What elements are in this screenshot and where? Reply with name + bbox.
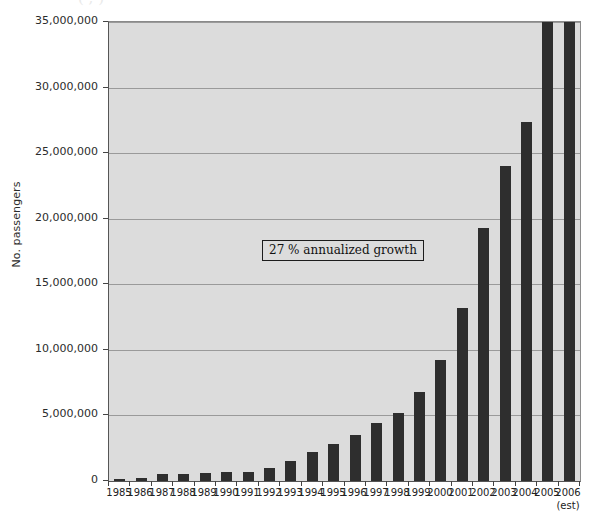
bar xyxy=(478,228,489,481)
clipped-title-text: ( , ) xyxy=(78,0,104,5)
y-axis-tick-mark xyxy=(103,21,108,22)
x-axis-tick-mark xyxy=(451,481,452,486)
bar xyxy=(328,444,339,481)
bar xyxy=(221,472,232,481)
y-axis-tick-mark xyxy=(103,414,108,415)
y-axis-tick-label: 30,000,000 xyxy=(14,80,98,93)
bar xyxy=(500,166,511,481)
y-axis-tick-mark xyxy=(103,218,108,219)
y-axis-tick-label: 25,000,000 xyxy=(14,145,98,158)
y-axis-tick-mark xyxy=(103,283,108,284)
x-axis-tick-mark xyxy=(386,481,387,486)
x-axis-tick-mark xyxy=(258,481,259,486)
bar xyxy=(307,452,318,481)
bar xyxy=(200,473,211,481)
x-axis-tick-mark xyxy=(279,481,280,486)
x-axis-tick-mark xyxy=(579,481,580,486)
y-axis-tick-label: 10,000,000 xyxy=(14,342,98,355)
bar xyxy=(371,423,382,481)
x-axis-tick-mark xyxy=(408,481,409,486)
x-axis-tick-mark xyxy=(108,481,109,486)
bar xyxy=(285,461,296,481)
clipped-title-strip: ( , ) xyxy=(0,0,590,14)
gridline xyxy=(109,22,580,23)
x-axis-estimate-note: (est) xyxy=(551,500,585,511)
bar xyxy=(542,22,553,481)
x-axis-tick-mark xyxy=(301,481,302,486)
x-axis-tick-mark xyxy=(129,481,130,486)
y-axis-tick-mark xyxy=(103,349,108,350)
gridline xyxy=(109,153,580,154)
bar xyxy=(435,360,446,481)
y-axis-tick-label: 35,000,000 xyxy=(14,14,98,27)
y-axis-tick-label: 0 xyxy=(14,473,98,486)
x-axis-tick-mark xyxy=(322,481,323,486)
bar xyxy=(136,478,147,481)
y-axis-tick-mark xyxy=(103,152,108,153)
bar xyxy=(457,308,468,481)
x-axis-tick-mark xyxy=(365,481,366,486)
x-axis-tick-mark xyxy=(558,481,559,486)
annotation-box: 27 % annualized growth xyxy=(262,240,424,261)
bar xyxy=(393,413,404,481)
bar xyxy=(114,479,125,481)
bar xyxy=(521,122,532,481)
x-axis-tick-mark xyxy=(536,481,537,486)
x-axis-tick-mark xyxy=(472,481,473,486)
bar xyxy=(178,474,189,481)
y-axis-tick-label: 20,000,000 xyxy=(14,211,98,224)
y-axis-tick-label: 15,000,000 xyxy=(14,276,98,289)
x-axis-tick-mark xyxy=(215,481,216,486)
y-axis-tick-label: 5,000,000 xyxy=(14,407,98,420)
bar xyxy=(564,22,575,481)
x-axis-tick-mark xyxy=(151,481,152,486)
x-axis-tick-label: 2006 xyxy=(553,487,583,498)
bar xyxy=(414,392,425,481)
x-axis-tick-mark xyxy=(194,481,195,486)
x-axis-tick-mark xyxy=(493,481,494,486)
x-axis-tick-mark xyxy=(344,481,345,486)
bar xyxy=(157,474,168,481)
bar xyxy=(243,472,254,481)
gridline xyxy=(109,88,580,89)
chart-root: ( , ) No. passengers 05,000,00010,000,00… xyxy=(0,0,590,519)
x-axis-tick-mark xyxy=(429,481,430,486)
bar xyxy=(350,435,361,481)
y-axis-tick-mark xyxy=(103,87,108,88)
x-axis-tick-mark xyxy=(515,481,516,486)
x-axis-tick-mark xyxy=(172,481,173,486)
x-axis-tick-mark xyxy=(236,481,237,486)
bar xyxy=(264,468,275,481)
y-axis-title: No. passengers xyxy=(10,165,23,285)
